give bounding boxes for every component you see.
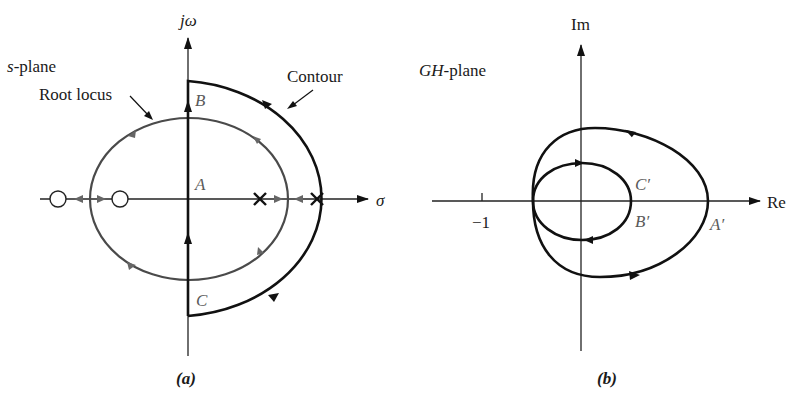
nyquist-figure: jω σ s-plane Root locus Contour B A C (a… [0, 0, 797, 394]
sigma-axis-label: σ [376, 191, 385, 210]
point-b-prime-label: B′ [635, 212, 649, 231]
gh-plane-label: GH-plane [419, 61, 486, 80]
s-plane-label: s-plane [7, 57, 56, 76]
point-a-label: A [194, 175, 206, 194]
re-axis-label: Re [767, 193, 786, 212]
point-c-prime-label: C′ [635, 175, 650, 194]
contour-label: Contour [287, 67, 343, 86]
nyquist-outer-curve [533, 128, 708, 277]
zero-marker [50, 191, 66, 207]
point-b-label: B [195, 91, 206, 110]
minus-one-label: −1 [472, 213, 490, 232]
point-c-label: C [196, 291, 208, 310]
caption-b: (b) [597, 369, 617, 388]
contour-callout [287, 90, 313, 109]
caption-a: (a) [176, 369, 196, 388]
panel-a-s-plane: jω σ s-plane Root locus Contour B A C (a… [7, 11, 385, 388]
jw-axis-label: jω [178, 11, 197, 30]
im-axis-label: Im [571, 15, 590, 34]
point-a-prime-label: A′ [709, 215, 724, 234]
zero-marker [112, 191, 128, 207]
root-locus-callout [130, 96, 153, 120]
root-locus-label: Root locus [39, 85, 112, 104]
panel-b-gh-plane: Im Re −1 GH-plane C′ B′ A′ (b) [419, 15, 786, 388]
